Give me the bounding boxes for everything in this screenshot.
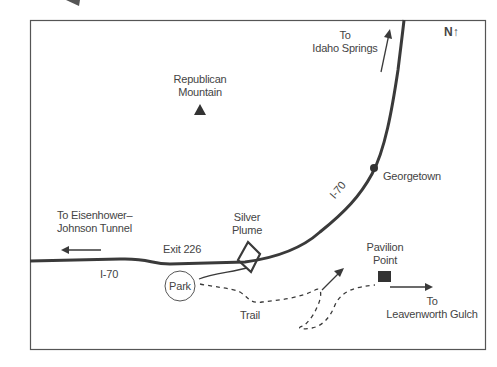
mountain-peak-icon [194, 104, 206, 115]
idaho-springs-arrow-icon [384, 29, 392, 39]
label-pavilion-point: Pavilion Point [360, 241, 410, 267]
page-corner-artifact [66, 0, 80, 6]
label-idaho-springs-line1: To [305, 29, 385, 42]
eisenhower-arrow-icon [61, 246, 69, 254]
label-republican-mountain: Republican Mountain [160, 73, 240, 99]
trail-path [200, 284, 375, 329]
label-park: Park [165, 280, 195, 293]
pavilion-point-marker-icon [378, 271, 391, 282]
georgetown-town-marker-icon [370, 164, 378, 172]
label-trail: Trail [240, 309, 260, 322]
label-pavilion-line2: Point [360, 254, 410, 267]
label-georgetown: Georgetown [383, 170, 441, 183]
label-pavilion-line1: Pavilion [360, 241, 410, 254]
label-eisenhower-line2: Johnson Tunnel [57, 222, 132, 235]
label-leavenworth-line2: Leavenworth Gulch [382, 308, 482, 321]
label-silver-plume-line2: Plume [217, 224, 277, 237]
label-i70-west: I-70 [100, 268, 118, 281]
label-republican-mountain-line1: Republican [160, 73, 240, 86]
park-access-road [199, 268, 247, 279]
label-republican-mountain-line2: Mountain [160, 86, 240, 99]
leavenworth-arrow-icon [425, 283, 433, 291]
interchange-icon [238, 242, 260, 272]
label-leavenworth-gulch: To Leavenworth Gulch [382, 295, 482, 321]
label-idaho-springs-line2: Idaho Springs [305, 42, 385, 55]
label-exit-226: Exit 226 [163, 243, 201, 256]
label-eisenhower-line1: To Eisenhower– [57, 209, 132, 222]
label-silver-plume-line1: Silver [217, 211, 277, 224]
label-eisenhower-tunnel: To Eisenhower– Johnson Tunnel [57, 209, 132, 235]
north-indicator: N↑ [444, 25, 459, 39]
label-leavenworth-line1: To [382, 295, 482, 308]
label-idaho-springs: To Idaho Springs [305, 29, 385, 55]
label-silver-plume: Silver Plume [217, 211, 277, 237]
